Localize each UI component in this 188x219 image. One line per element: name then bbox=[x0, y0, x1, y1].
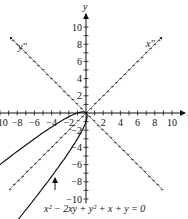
x-axis-label: x bbox=[187, 107, 188, 118]
x-tick-label: −10 bbox=[0, 117, 8, 128]
y-tick-label: 10 bbox=[72, 22, 82, 33]
y-tick-label: 4 bbox=[77, 73, 82, 84]
x-tick-label: 8 bbox=[152, 117, 157, 128]
chart: xy−10−8−6−4−2246810−10−8−6−4−2246810++++… bbox=[0, 0, 188, 219]
x-tick-label: 4 bbox=[118, 117, 123, 128]
y-tick-label: −4 bbox=[71, 142, 82, 153]
ypp-axis-label: y'' bbox=[17, 41, 28, 52]
x-tick-label: 10 bbox=[167, 117, 177, 128]
y-tick-label: 2 bbox=[77, 90, 82, 101]
y-axis-label: y bbox=[82, 1, 88, 12]
x-tick-label: −6 bbox=[29, 117, 40, 128]
ypp-axis-tick: + bbox=[160, 187, 164, 193]
y-tick-label: 6 bbox=[77, 56, 82, 67]
xpp-axis-label: x'' bbox=[145, 38, 156, 49]
equation-label: x² − 2xy + y² + x + y = 0 bbox=[43, 203, 145, 214]
x-tick-label: −8 bbox=[12, 117, 23, 128]
x-tick-label: 6 bbox=[135, 117, 140, 128]
y-tick-label: 8 bbox=[77, 39, 82, 50]
y-tick-label: −6 bbox=[71, 159, 82, 170]
y-tick-label: −8 bbox=[71, 176, 82, 187]
